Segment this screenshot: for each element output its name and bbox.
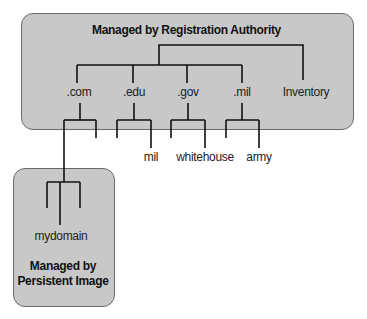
persistent-image-title-line2: Persistent Image: [13, 274, 113, 289]
node-gov-whitehouse: whitehouse: [176, 150, 234, 164]
node-mydomain: mydomain: [35, 229, 88, 243]
node-edu-mil: mil: [144, 150, 158, 164]
node-inventory: Inventory: [283, 85, 330, 99]
node-com: .com: [67, 85, 92, 99]
node-mil: .mil: [233, 85, 250, 99]
node-gov: .gov: [177, 85, 198, 99]
node-mil-army: army: [246, 150, 271, 164]
registration-authority-title: Managed by Registration Authority: [21, 23, 352, 38]
persistent-image-title-line1: Managed by: [13, 259, 113, 274]
node-edu: .edu: [123, 85, 145, 99]
